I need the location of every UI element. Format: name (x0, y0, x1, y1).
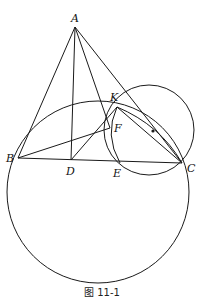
geometry-diagram: A B C D E F K 图 11-1 (0, 0, 201, 298)
segment-AC (75, 27, 182, 163)
label-D: D (65, 165, 75, 178)
center-dot (151, 129, 154, 132)
label-K: K (109, 91, 119, 104)
segment-BF (18, 128, 110, 158)
figure-caption: 图 11-1 (84, 287, 120, 298)
label-C: C (187, 162, 196, 175)
segment-AB (18, 27, 75, 158)
label-B: B (5, 152, 14, 165)
segment-BC (18, 158, 182, 163)
segment-AE (75, 27, 110, 128)
label-F: F (113, 122, 122, 135)
segment-KC (117, 107, 182, 163)
label-E: E (112, 167, 121, 180)
arc-K-E (111, 107, 120, 163)
label-A: A (70, 12, 79, 25)
